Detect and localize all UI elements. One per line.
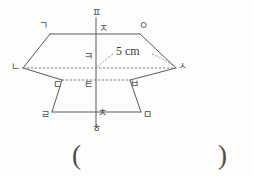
vertex-label-r: ㄹ [41,110,50,120]
axis-label-t: ㅌ [84,80,93,90]
edge-o-s [140,34,176,68]
vertex-label-n: ㄴ [11,62,20,72]
axis-label-h: ㅎ [92,124,101,134]
diagram-page: ㄱ ㅇ ㄴ ㅅ ㄷ ㅂ ㄹ ㅁ ㅍ ㅈ ㅋ ㅌ ㅊ ㅎ 5 cm ( ) [0,0,253,176]
vertex-label-m: ㅁ [143,110,152,120]
vertex-label-o: ㅇ [139,21,148,31]
edge-g-n [23,34,50,68]
vertex-label-b: ㅂ [130,79,139,89]
center-label-k: ㅋ [84,52,93,62]
answer-blank[interactable]: ( ) [0,140,253,176]
answer-close-paren: ) [218,142,227,169]
axis-label-j: ㅈ [99,24,108,34]
dimension-label-5cm: 5 cm [116,45,140,57]
axis-label-p: ㅍ [92,8,101,18]
axis-label-ch: ㅊ [98,108,107,118]
vertex-label-s: ㅅ [178,61,187,71]
answer-open-paren: ( [72,142,81,169]
dimension-leader-left [97,54,113,67]
vertex-label-d: ㄷ [53,80,62,90]
vertex-label-g: ㄱ [39,21,48,31]
